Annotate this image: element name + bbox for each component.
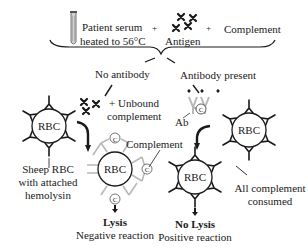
consumed-label: consumed bbox=[230, 195, 308, 207]
antigen-label: Antigen bbox=[165, 35, 200, 47]
rbc-label: RBC bbox=[182, 171, 208, 183]
patient-serum-label: Patient serum bbox=[82, 21, 142, 33]
complement-pointer-label: Complement bbox=[126, 138, 183, 150]
rbc-label: RBC bbox=[36, 120, 62, 132]
test-tube-icon bbox=[70, 11, 77, 44]
antibody-present-label: Antibody present bbox=[180, 69, 256, 81]
antigen-icon bbox=[173, 14, 196, 31]
complement-symbol: C bbox=[111, 194, 119, 206]
unbound-complement-label: complement bbox=[107, 110, 161, 122]
complement-symbol: C bbox=[111, 134, 119, 146]
plus-sign: + bbox=[152, 22, 157, 34]
hemolysin-label: hemolysin bbox=[10, 189, 86, 201]
complement-symbol: C bbox=[197, 104, 205, 116]
attached-label: with attached bbox=[10, 176, 86, 188]
ab-label: Ab bbox=[175, 116, 188, 128]
heated-label: heated to 56°C bbox=[80, 35, 146, 47]
sheep-rbc-label: Sheep RBC bbox=[10, 163, 86, 175]
unbound-antigen-icon bbox=[81, 99, 99, 114]
positive-reaction-label: Positive reaction bbox=[140, 231, 250, 243]
no-lysis-label: No Lysis bbox=[160, 218, 230, 230]
all-complement-label: All complement bbox=[230, 182, 308, 194]
rbc-label: RBC bbox=[236, 124, 262, 136]
unbound-label: + Unbound bbox=[109, 97, 159, 109]
complement-label: Complement bbox=[224, 23, 281, 35]
rbc-label: RBC bbox=[102, 163, 128, 175]
complement-symbol: C bbox=[143, 164, 151, 176]
lysis-label: Lysis bbox=[80, 216, 150, 228]
plus-sign: + bbox=[206, 22, 211, 34]
no-antibody-label: No antibody bbox=[95, 68, 150, 80]
